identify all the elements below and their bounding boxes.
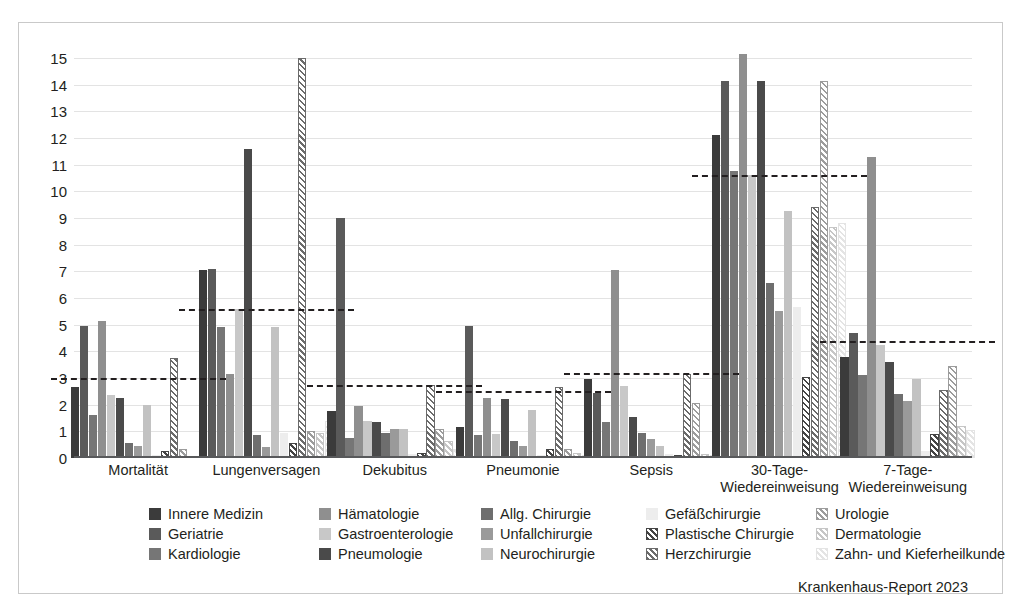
bar: [271, 327, 279, 458]
legend-label: Herzchirurgie: [665, 546, 751, 562]
bar: [876, 345, 884, 458]
legend-label: Allg. Chirurgie: [500, 506, 591, 522]
x-axis-label: 30-Tage- Wiedereinweisung: [720, 462, 838, 496]
y-axis-tick-label: 9: [59, 211, 67, 226]
bar: [71, 387, 79, 458]
bar: [336, 218, 344, 458]
y-axis-tick-label: 1: [59, 424, 67, 439]
y-axis-tick-label: 10: [50, 184, 67, 199]
legend-label: Neurochirurgie: [500, 546, 595, 562]
y-axis-tick-label: 6: [59, 291, 67, 306]
legend-swatch-icon: [319, 508, 331, 520]
legend-label: Unfallchirurgie: [500, 526, 593, 542]
y-axis-tick-label: 0: [59, 451, 67, 466]
bar: [939, 390, 947, 458]
bar: [345, 438, 353, 458]
legend-item: Gefäßchirurgie: [646, 506, 816, 522]
bar: [327, 411, 335, 458]
average-line: [436, 391, 611, 393]
bar: [766, 283, 774, 458]
legend-swatch-icon: [646, 508, 658, 520]
bar: [930, 434, 938, 458]
legend-item: Plastische Chirurgie: [646, 526, 816, 542]
average-line: [820, 341, 995, 343]
legend-item: Herzchirurgie: [646, 546, 816, 562]
legend-label: Zahn- und Kieferheilkunde: [835, 546, 1005, 562]
bar: [199, 270, 207, 458]
legend-label: Pneumologie: [338, 546, 423, 562]
y-axis-tick-label: 2: [59, 397, 67, 412]
bar: [867, 157, 875, 458]
legend-swatch-icon: [149, 528, 161, 540]
legend-label: Urologie: [835, 506, 889, 522]
bar: [966, 430, 974, 458]
bar: [217, 327, 225, 458]
bar: [638, 433, 646, 458]
x-axis-label: 7-Tage- Wiedereinweisung: [849, 462, 967, 496]
average-line: [692, 175, 867, 177]
legend-swatch-icon: [481, 548, 493, 560]
bar-group: [840, 58, 975, 458]
bar: [957, 426, 965, 458]
bar: [757, 81, 765, 458]
bar: [492, 434, 500, 458]
y-axis-tick-label: 14: [50, 77, 67, 92]
legend-swatch-icon: [816, 528, 828, 540]
bar: [528, 410, 536, 458]
bar: [116, 398, 124, 458]
legend-item: Urologie: [816, 506, 1016, 522]
chart-page: 0123456789101112131415 MortalitätLungenv…: [0, 0, 1027, 616]
bar: [372, 422, 380, 458]
bar: [143, 405, 151, 458]
y-axis-tick-label: 8: [59, 237, 67, 252]
legend-label: Dermatologie: [835, 526, 921, 542]
average-line: [307, 385, 482, 387]
legend-item: Neurochirurgie: [481, 546, 646, 562]
bar-group: [199, 58, 334, 458]
bar: [611, 270, 619, 458]
legend-swatch-icon: [319, 548, 331, 560]
bar: [298, 58, 306, 458]
bar: [555, 387, 563, 458]
bar: [739, 54, 747, 458]
y-axis-tick-label: 12: [50, 131, 67, 146]
bar: [849, 333, 857, 458]
y-axis-tick-label: 11: [51, 157, 67, 172]
legend-item: Unfallchirurgie: [481, 526, 646, 542]
bar: [98, 321, 106, 458]
bar: [629, 417, 637, 458]
bar-group: [327, 58, 462, 458]
bar: [602, 422, 610, 458]
bar: [894, 394, 902, 458]
bar: [235, 309, 243, 458]
bar: [802, 377, 810, 458]
legend-item: Dermatologie: [816, 526, 1016, 542]
bar: [208, 269, 216, 458]
bar: [784, 211, 792, 458]
y-axis-tick-label: 15: [50, 51, 67, 66]
legend-item: Geriatrie: [149, 526, 319, 542]
bar: [354, 406, 362, 458]
bar: [435, 429, 443, 458]
bar-group: [584, 58, 719, 458]
bar: [399, 429, 407, 458]
y-axis-tick-label: 4: [59, 344, 67, 359]
legend-label: Hämatologie: [338, 506, 419, 522]
bar: [280, 433, 288, 458]
average-line: [564, 373, 739, 375]
bar: [107, 395, 115, 458]
bar: [390, 429, 398, 458]
bar: [363, 421, 371, 458]
legend-swatch-icon: [646, 528, 658, 540]
bar: [307, 431, 315, 458]
bar: [316, 433, 324, 458]
legend-label: Kardiologie: [168, 546, 241, 562]
legend-item: Innere Medizin: [149, 506, 319, 522]
legend-item: Gastroenterologie: [319, 526, 481, 542]
bar: [820, 81, 828, 458]
bar: [381, 433, 389, 458]
legend-swatch-icon: [816, 548, 828, 560]
bar: [253, 435, 261, 458]
legend-label: Innere Medizin: [168, 506, 263, 522]
bar: [840, 357, 848, 458]
